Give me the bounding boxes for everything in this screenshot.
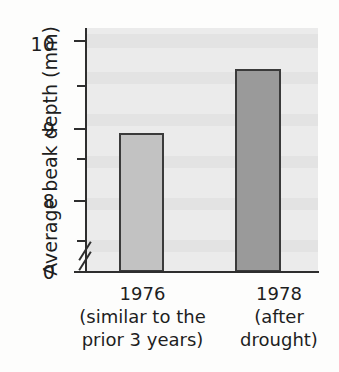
bar-1978 (235, 69, 281, 272)
y-tick-9 (74, 128, 86, 130)
category-sub1-1976: (similar to the (55, 305, 230, 328)
y-axis-break-icon (70, 240, 100, 270)
x-axis-line (85, 271, 319, 273)
category-sub1-1978: (after (220, 305, 338, 328)
plot-band (86, 72, 318, 84)
y-tick-minor-9-5 (77, 85, 86, 87)
bar-1976 (119, 133, 164, 272)
y-tick-0 (74, 271, 86, 273)
y-axis-title: Average beak depth (mm) (39, 16, 61, 286)
category-year-1976: 1976 (55, 282, 230, 305)
beak-depth-bar-chart: 10 9 8 0 Average beak depth (mm) 1976 (s… (0, 0, 339, 372)
y-tick-minor-8-5 (77, 158, 86, 160)
category-sub2-1978: drought) (220, 328, 338, 351)
plot-band (86, 114, 318, 126)
plot-band (86, 34, 318, 48)
x-category-label-1976: 1976 (similar to the prior 3 years) (55, 282, 230, 351)
y-axis-line (85, 28, 87, 273)
y-tick-10 (74, 40, 86, 42)
x-category-label-1978: 1978 (after drought) (220, 282, 338, 351)
category-sub2-1976: prior 3 years) (55, 328, 230, 351)
category-year-1978: 1978 (220, 282, 338, 305)
y-tick-8 (74, 200, 86, 202)
